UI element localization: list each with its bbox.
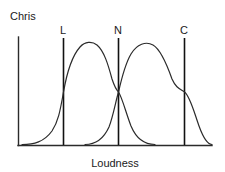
page-title: Chris xyxy=(10,10,36,22)
marker-label-n: N xyxy=(114,24,122,36)
distribution-curve-1 xyxy=(22,42,155,144)
x-axis-label: Loudness xyxy=(91,157,139,169)
marker-label-c: C xyxy=(180,24,188,36)
marker-label-l: L xyxy=(60,24,66,36)
chart-figure: Chris L N C Loudness xyxy=(0,0,225,172)
distribution-curve-2 xyxy=(85,43,212,144)
